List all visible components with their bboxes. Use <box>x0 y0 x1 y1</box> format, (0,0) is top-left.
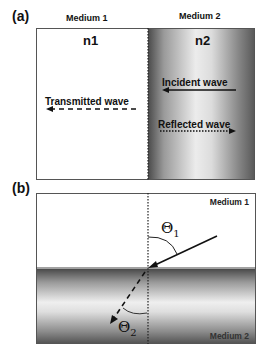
theta2-arc <box>123 308 147 314</box>
theta2-symbol: Θ <box>118 318 130 336</box>
theta1-arc <box>148 237 177 254</box>
theta2-subscript: 2 <box>130 327 136 338</box>
refracted-ray-arrow-icon <box>110 315 118 324</box>
theta1-label: Θ1 <box>161 219 180 239</box>
theta2-label: Θ2 <box>118 318 137 338</box>
theta1-subscript: 1 <box>173 228 179 239</box>
panel-b-rays <box>0 0 269 356</box>
theta1-symbol: Θ <box>161 219 173 237</box>
incident-ray-arrow-icon <box>148 261 158 268</box>
